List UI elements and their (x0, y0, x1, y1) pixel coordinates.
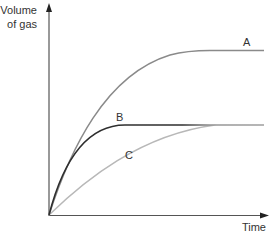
curve-label-c: C (125, 149, 133, 161)
curve-label-a: A (243, 36, 250, 48)
x-axis-arrow-icon (260, 213, 269, 219)
curve-label-b: B (116, 111, 123, 123)
x-axis-label: Time (242, 221, 266, 233)
curve-a (49, 51, 264, 216)
y-axis-arrow-icon (46, 3, 52, 12)
chart-plot (0, 0, 270, 235)
y-axis-label-line1: Volume (0, 4, 37, 17)
y-axis-label-line2: of gas (7, 18, 37, 31)
